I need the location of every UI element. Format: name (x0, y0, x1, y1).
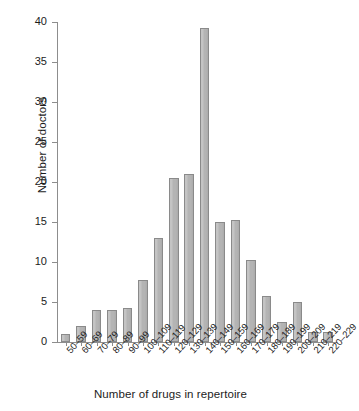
y-axis-tick-label: 35 (7, 56, 47, 67)
plot-area (58, 22, 336, 342)
y-axis-tick-label: 5 (7, 296, 47, 307)
y-axis-tick-label: 15 (7, 216, 47, 227)
x-axis-title: Number of drugs in repertoire (0, 388, 341, 400)
y-axis-tick-label: 20 (7, 176, 47, 187)
bar (184, 174, 194, 342)
y-axis-tick-label: 10 (7, 256, 47, 267)
bar (169, 178, 179, 342)
y-axis-tick-label: 40 (7, 16, 47, 27)
bar (200, 28, 210, 342)
y-axis-tick-label: 30 (7, 96, 47, 107)
y-axis-tick-label: 0 (7, 336, 47, 347)
y-axis-tick-label: 25 (7, 136, 47, 147)
